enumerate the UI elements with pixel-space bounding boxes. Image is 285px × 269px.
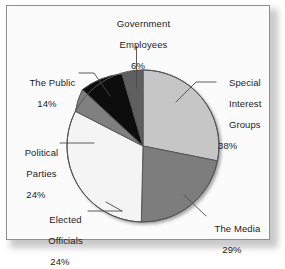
label-percent: 24% [32,257,88,268]
label-text-line1: The Media [215,223,261,234]
label-text-line2: Parties [26,168,56,179]
label-percent: 6% [90,61,186,72]
label-text-line2: Interest [229,98,261,109]
pie-label-special-interest-groups: Special Interest Groups 38% [218,67,278,172]
label-text-line1: Special [229,77,261,88]
label-text-line2: Employees [120,39,168,50]
pie-label-political-parties: Political Parties 24% [12,137,60,221]
pie-label-the-public: The Public 14% [16,67,78,130]
pie-slices-group [67,70,219,222]
label-percent: 38% [218,141,278,152]
label-percent: 14% [16,99,78,110]
label-text-line1: Government [117,18,170,29]
pie-label-the-media: The Media 29% [198,213,266,269]
label-text-line3: Groups [229,119,261,130]
label-percent: 24% [12,190,60,201]
pie-label-government-employees: Government Employees 6% [90,8,186,92]
label-text-line1: Political [25,147,59,158]
label-text-line1: The Public [29,77,75,88]
label-percent: 29% [198,245,266,256]
label-text-line2: Officials [48,235,83,246]
